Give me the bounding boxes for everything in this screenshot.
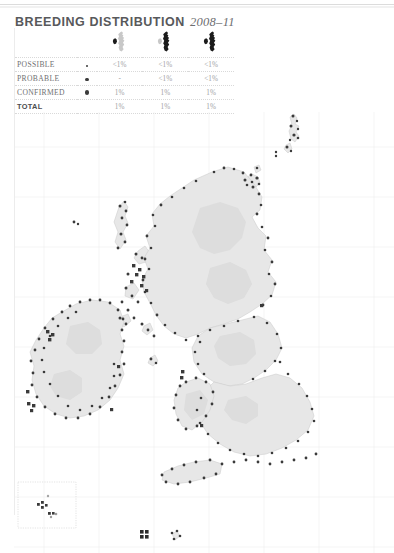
row-marker-probable [77, 72, 97, 86]
row-label-possible: POSSIBLE [15, 58, 77, 72]
cell-confirmed-scope2: 1% [142, 86, 188, 100]
header-cell-scope-3 [188, 29, 234, 58]
page-title: BREEDING DISTRIBUTION2008–11 [15, 12, 235, 30]
table-row: CONFIRMED 1% 1% 1% [15, 86, 234, 100]
row-label-confirmed: CONFIRMED [15, 86, 77, 100]
cell-possible-scope1: <1% [97, 58, 143, 72]
cell-possible-scope2: <1% [142, 58, 188, 72]
page-top-edge-shadow [0, 6, 394, 8]
row-marker-possible [77, 58, 97, 72]
cell-confirmed-scope3: 1% [188, 86, 234, 100]
breeding-legend-table: POSSIBLE <1% <1% <1% PROBABLE - <1% <1% … [15, 29, 234, 114]
cell-probable-scope3: <1% [188, 72, 234, 86]
row-label-probable: PROBABLE [15, 72, 77, 86]
table-row: PROBABLE - <1% <1% [15, 72, 234, 86]
header-cell-category [15, 29, 77, 58]
land-isle-of-man [148, 355, 158, 366]
cell-probable-scope1: - [97, 72, 143, 86]
map-confirmed-block [140, 530, 149, 539]
header-cell-marker [77, 29, 97, 58]
header-cell-scope-1 [97, 29, 143, 58]
map-thumbnail-britain-ireland-1-icon [112, 31, 128, 55]
cell-probable-scope2: <1% [142, 72, 188, 86]
medium-dot-icon [85, 78, 88, 81]
cell-possible-scope3: <1% [188, 58, 234, 72]
header-cell-scope-2 [142, 29, 188, 58]
land-scotland [142, 167, 276, 338]
row-marker-confirmed [77, 86, 97, 100]
table-row: POSSIBLE <1% <1% <1% [15, 58, 234, 72]
channel-islands-inset [17, 481, 77, 529]
table-header-row [15, 29, 234, 58]
inset-svg [17, 481, 77, 529]
page-top-edge-line [0, 4, 394, 5]
map-thumbnail-britain-ireland-3-icon [203, 31, 219, 55]
small-dot-icon [86, 65, 88, 67]
map-thumbnail-britain-ireland-2-icon [157, 31, 173, 55]
page-title-years: 2008–11 [190, 15, 235, 29]
inset-dots [37, 495, 57, 518]
cell-confirmed-scope1: 1% [97, 86, 143, 100]
land-cornwall [162, 460, 222, 484]
large-dot-icon [85, 90, 90, 95]
page-title-main: BREEDING DISTRIBUTION [15, 15, 185, 29]
